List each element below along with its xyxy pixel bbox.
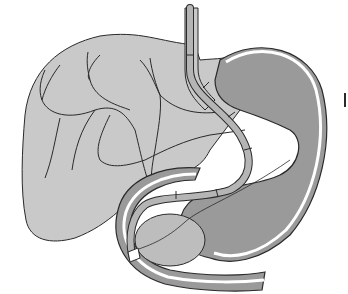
diagram-svg: [0, 0, 348, 294]
edge-mark: [344, 93, 346, 107]
pancreas-head: [135, 214, 205, 266]
anatomy-diagram: [0, 0, 348, 294]
